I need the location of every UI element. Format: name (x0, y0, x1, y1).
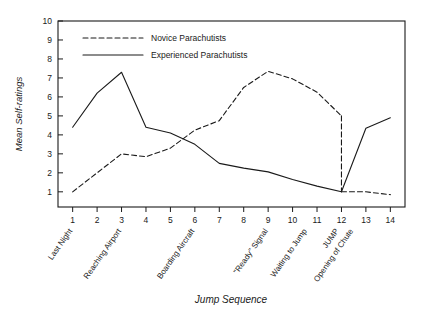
x-tick-label: 6 (192, 215, 197, 225)
x-tick-label: 4 (144, 215, 149, 225)
x-tick-label: 14 (386, 215, 396, 225)
y-tick-label: 4 (47, 130, 52, 140)
x-tick-label: 9 (266, 215, 271, 225)
x-tick-label: 13 (361, 215, 371, 225)
y-tick-label: 7 (47, 73, 52, 83)
y-tick-label: 5 (47, 111, 52, 121)
y-tick-label: 1 (47, 187, 52, 197)
x-tick-label: 8 (241, 215, 246, 225)
x-tick-label: 12 (337, 215, 347, 225)
x-tick-label: 3 (119, 215, 124, 225)
chart-background (0, 0, 424, 319)
y-axis-title: Mean Self-ratings (13, 77, 24, 152)
legend-label: Experienced Parachutists (151, 50, 247, 60)
x-tick-label: 11 (313, 215, 322, 225)
y-tick-label: 3 (47, 149, 52, 159)
y-tick-label: 8 (47, 54, 52, 64)
x-tick-label: 5 (168, 215, 173, 225)
chart-figure: 12345678910 1234567891011121314 Last Nig… (0, 0, 424, 319)
x-tick-label: 2 (95, 215, 100, 225)
y-tick-label: 9 (47, 35, 52, 45)
x-axis-title: Jump Sequence (194, 294, 268, 305)
y-tick-label: 10 (43, 16, 53, 26)
x-tick-label: 1 (70, 215, 75, 225)
y-tick-label: 2 (47, 168, 52, 178)
legend-label: Novice Parachutists (151, 33, 226, 43)
x-tick-label: 7 (217, 215, 222, 225)
x-tick-label: 10 (288, 215, 298, 225)
y-tick-label: 6 (47, 92, 52, 102)
